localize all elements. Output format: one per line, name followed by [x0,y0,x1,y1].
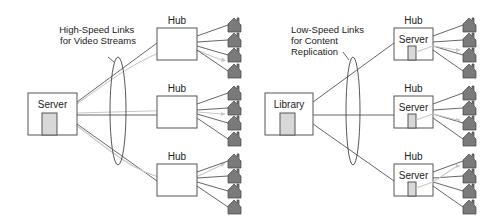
caption-leader-line [108,57,114,62]
hub-server-label: Server [399,34,429,45]
stream-arrow-1 [221,57,226,62]
hub-server-label: Server [399,170,429,181]
disk-icon [408,114,416,128]
house-icon [228,64,241,78]
house-icon [228,48,241,62]
hub-server-label: Server [399,102,429,113]
high-speed-caption: High-Speed Links for Video Streams [59,24,137,46]
home-link [433,186,463,207]
home-link [197,118,228,139]
house-icon [463,86,476,100]
hub-1: HubServer [394,15,476,78]
video-stream-2 [77,111,222,114]
hub-box [157,96,197,128]
house-icon [463,169,476,183]
home-link [433,108,463,110]
stream-arrow-2 [221,112,226,116]
video-stream-3 [77,126,222,180]
house-icon [228,169,241,183]
disk-icon [408,182,416,196]
house-icon [463,132,476,146]
home-link [433,118,463,139]
home-link [197,93,228,104]
house-icon [463,154,476,168]
hub-label: Hub [168,83,187,94]
house-icon [228,18,241,32]
low-speed-caption: Low-Speed Links for Content Replication [291,24,367,57]
house-icon [228,116,241,130]
hub-label: Hub [404,83,423,94]
caption-line-2: for Video Streams [60,35,136,46]
link-server-hub-1 [77,43,157,102]
house-icon [463,101,476,115]
hub-2: Hub [157,83,241,146]
video-stream-1 [77,47,222,104]
library-label: Library [274,99,305,110]
house-icon [228,200,241,214]
house-icon [463,64,476,78]
house-icon [463,33,476,47]
home-link [433,40,463,42]
left-diagram: Server High-Speed Links for Video Stream… [28,15,241,214]
hub-label: Hub [404,151,423,162]
house-icon [228,101,241,115]
hub-label: Hub [404,15,423,26]
hub-3: HubServer [394,151,476,214]
source-server: Server [28,93,77,135]
home-link [197,176,228,178]
disk-icon [408,46,416,60]
library-server: Library [265,93,313,135]
caption-line-1: Low-Speed Links [291,24,364,35]
home-link [433,176,463,178]
home-link [433,93,463,104]
house-icon [228,86,241,100]
caption-line-2: for Content [291,35,338,46]
hub-2: HubServer [394,83,476,146]
link-group-ellipse [110,57,126,165]
hub-label: Hub [168,151,187,162]
caption-line-3: Replication [291,46,338,57]
house-icon [463,48,476,62]
home-link [433,50,463,71]
disk-icon [42,113,57,135]
link-library-hub-3 [313,124,394,181]
house-icon [228,184,241,198]
hub-box [157,164,197,196]
hub-label: Hub [168,15,187,26]
source-server-label: Server [38,99,68,110]
hub-3: Hub [157,151,241,214]
house-icon [463,116,476,130]
hub-1: Hub [157,15,241,78]
home-link [197,161,228,172]
caption-leader-line [343,52,349,60]
vod-architecture-diagram: Server High-Speed Links for Video Stream… [0,0,503,224]
hub-box [157,28,197,60]
house-icon [463,200,476,214]
right-diagram: Library Low-Speed Links for Content Repl… [265,15,476,214]
home-link [433,25,463,36]
disk-icon [280,113,295,135]
house-icon [463,184,476,198]
home-link [197,186,228,207]
caption-line-1: High-Speed Links [59,24,134,35]
home-link [197,25,228,36]
house-icon [228,33,241,47]
stream-arrow [456,48,461,52]
house-icon [228,132,241,146]
house-icon [463,18,476,32]
house-icon [228,154,241,168]
home-link [197,108,228,110]
stream-arrow [456,164,461,168]
home-link [197,40,228,42]
